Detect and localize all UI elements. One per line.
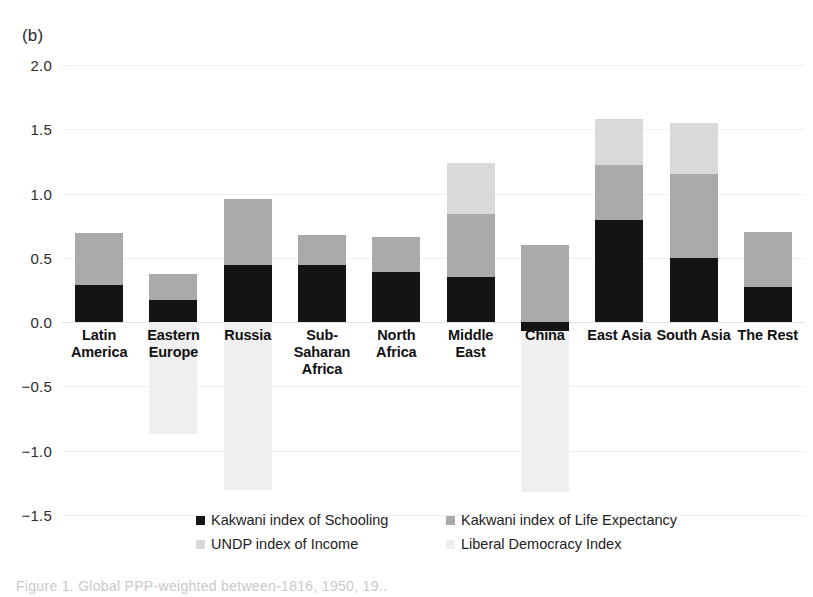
- legend-swatch-democracy: [446, 540, 455, 549]
- bar-segment: [521, 245, 569, 322]
- bars-layer: [62, 0, 805, 597]
- figure-caption: Figure 1. Global PPP-weighted between-18…: [16, 578, 387, 594]
- category-label-line: East Asia: [582, 327, 656, 344]
- legend-swatch-income: [196, 540, 205, 549]
- bar-segment: [75, 285, 123, 322]
- bar-russia[interactable]: [224, 0, 272, 597]
- category-label: NorthAfrica: [359, 327, 433, 361]
- bar-segment: [521, 331, 569, 492]
- category-label: EasternEurope: [136, 327, 210, 361]
- bar-segment: [372, 272, 420, 322]
- bar-china[interactable]: [521, 0, 569, 597]
- bar-segment: [149, 300, 197, 322]
- y-tick-label: 1.5: [0, 121, 52, 138]
- legend-row: UNDP index of Income Liberal Democracy I…: [196, 536, 796, 552]
- legend-row: Kakwani index of Schooling Kakwani index…: [196, 512, 796, 528]
- bar-latin-america[interactable]: [75, 0, 123, 597]
- y-tick-label: 0.0: [0, 314, 52, 331]
- bar-south-asia[interactable]: [670, 0, 718, 597]
- bar-segment: [224, 199, 272, 266]
- category-label: LatinAmerica: [62, 327, 136, 361]
- bar-north-africa[interactable]: [372, 0, 420, 597]
- bar-segment: [298, 235, 346, 266]
- legend-item-democracy[interactable]: Liberal Democracy Index: [446, 536, 766, 552]
- legend-label-income: UNDP index of Income: [211, 536, 358, 552]
- y-tick-label: 1.0: [0, 185, 52, 202]
- category-label-line: North: [359, 327, 433, 344]
- category-label: The Rest: [731, 327, 805, 344]
- y-tick-label: 2.0: [0, 57, 52, 74]
- bar-middle-east[interactable]: [447, 0, 495, 597]
- bar-segment: [149, 274, 197, 300]
- category-label-line: Europe: [136, 344, 210, 361]
- category-label-line: South Asia: [656, 327, 730, 344]
- category-label-line: Saharan: [285, 344, 359, 361]
- category-label-line: Russia: [211, 327, 285, 344]
- bar-segment: [670, 123, 718, 174]
- bar-segment: [744, 287, 792, 322]
- bar-segment: [670, 258, 718, 322]
- bar-segment: [372, 237, 420, 272]
- y-tick-label: −1.5: [0, 506, 52, 523]
- bar-segment: [744, 232, 792, 287]
- bar-segment: [75, 233, 123, 284]
- category-label: South Asia: [656, 327, 730, 344]
- bar-the-rest[interactable]: [744, 0, 792, 597]
- legend-label-life-expectancy: Kakwani index of Life Expectancy: [461, 512, 677, 528]
- category-label-line: Africa: [359, 344, 433, 361]
- category-label-line: America: [62, 344, 136, 361]
- bar-segment: [595, 165, 643, 220]
- legend-item-income[interactable]: UNDP index of Income: [196, 536, 446, 552]
- y-tick-label: 0.5: [0, 249, 52, 266]
- legend-label-schooling: Kakwani index of Schooling: [211, 512, 388, 528]
- category-label-line: East: [434, 344, 508, 361]
- category-label-line: Sub-: [285, 327, 359, 344]
- y-tick-label: −1.0: [0, 442, 52, 459]
- bar-segment: [447, 163, 495, 214]
- category-label-line: China: [508, 327, 582, 344]
- category-label: Sub-SaharanAfrica: [285, 327, 359, 378]
- chart-legend: Kakwani index of Schooling Kakwani index…: [196, 512, 796, 560]
- legend-item-schooling[interactable]: Kakwani index of Schooling: [196, 512, 446, 528]
- category-label-line: The Rest: [731, 327, 805, 344]
- chart-plot-area: 2.01.51.00.50.0−0.5−1.0−1.5 LatinAmerica…: [0, 0, 813, 597]
- bar-segment: [298, 265, 346, 322]
- bar-segment: [670, 174, 718, 258]
- legend-swatch-life-expectancy: [446, 516, 455, 525]
- legend-swatch-schooling: [196, 516, 205, 525]
- category-label-line: Africa: [285, 361, 359, 378]
- category-label: Russia: [211, 327, 285, 344]
- y-tick-label: −0.5: [0, 378, 52, 395]
- category-label-line: Eastern: [136, 327, 210, 344]
- category-label-line: Latin: [62, 327, 136, 344]
- bar-segment: [595, 119, 643, 165]
- bar-segment: [447, 277, 495, 322]
- bar-east-asia[interactable]: [595, 0, 643, 597]
- legend-label-democracy: Liberal Democracy Index: [461, 536, 621, 552]
- bar-segment: [595, 220, 643, 322]
- bar-sub-saharan-africa[interactable]: [298, 0, 346, 597]
- category-label-line: Middle: [434, 327, 508, 344]
- bar-segment: [224, 265, 272, 322]
- legend-item-life-expectancy[interactable]: Kakwani index of Life Expectancy: [446, 512, 766, 528]
- category-label: East Asia: [582, 327, 656, 344]
- bar-eastern-europe[interactable]: [149, 0, 197, 597]
- bar-segment: [447, 214, 495, 277]
- bar-segment: [224, 322, 272, 490]
- category-label: China: [508, 327, 582, 344]
- category-label: MiddleEast: [434, 327, 508, 361]
